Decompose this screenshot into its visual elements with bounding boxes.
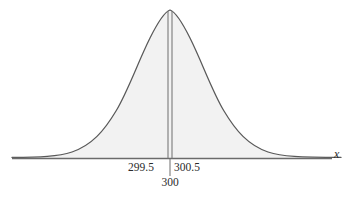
tick-label-upper-bound: 300.5 <box>174 162 200 174</box>
tick-label-center-mean: 300 <box>150 177 190 189</box>
curve-fill-area <box>12 10 341 158</box>
normal-distribution-figure: 299.5 300.5 300 x <box>0 0 353 208</box>
tick-label-lower-bound: 299.5 <box>128 162 154 174</box>
x-axis-label: x <box>334 148 339 160</box>
